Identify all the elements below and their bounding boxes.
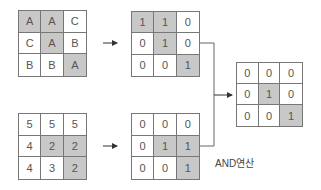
grid-cell: 5	[64, 114, 86, 136]
grid-cell: B	[41, 54, 63, 76]
grid-cell: 5	[41, 114, 63, 136]
grid-cell: A	[19, 11, 41, 33]
grid-cell: 0	[154, 55, 176, 76]
grid-cell: 1	[280, 105, 302, 126]
grid-input-numeric: 555422432	[18, 113, 87, 180]
grid-cell: 0	[132, 136, 154, 158]
grid-cell: 0	[132, 157, 154, 179]
grid-cell: 0	[132, 33, 154, 54]
grid-cell: 0	[237, 63, 259, 84]
grid-cell: 2	[64, 136, 86, 158]
grid-cell: 0	[259, 63, 281, 84]
grid-cell: 1	[177, 136, 199, 158]
grid-cell: 0	[280, 63, 302, 84]
grid-cell: 2	[64, 157, 86, 179]
grid-cell: 1	[154, 12, 176, 33]
grid-cell: 1	[259, 84, 281, 105]
grid-binary-bottom: 000011001	[131, 113, 200, 180]
grid-cell: 4	[19, 157, 41, 179]
and-operation-label: AND연산	[215, 155, 254, 170]
grid-cell: A	[41, 33, 63, 55]
grid-cell: 0	[280, 84, 302, 105]
grid-cell: 0	[177, 114, 199, 136]
grid-cell: 0	[237, 105, 259, 126]
grid-cell: A	[41, 11, 63, 33]
grid-cell: 4	[19, 136, 41, 158]
grid-cell: 1	[177, 157, 199, 179]
grid-cell: 0	[132, 55, 154, 76]
grid-input-categorical: AACCABBBA	[18, 10, 87, 77]
grid-cell: 1	[154, 136, 176, 158]
grid-binary-top: 110010001	[131, 11, 200, 77]
merge-bracket	[200, 43, 214, 146]
grid-cell: B	[64, 33, 86, 55]
grid-cell: C	[19, 33, 41, 55]
grid-cell: 0	[132, 114, 154, 136]
grid-cell: 0	[237, 84, 259, 105]
grid-cell: 0	[154, 157, 176, 179]
grid-cell: B	[19, 54, 41, 76]
grid-cell: 0	[154, 114, 176, 136]
grid-cell: A	[64, 54, 86, 76]
grid-cell: 0	[177, 33, 199, 54]
grid-cell: 0	[177, 12, 199, 33]
grid-cell: 1	[132, 12, 154, 33]
grid-result: 000010001	[236, 62, 303, 127]
grid-cell: 2	[41, 136, 63, 158]
grid-cell: 3	[41, 157, 63, 179]
grid-cell: 0	[259, 105, 281, 126]
grid-cell: C	[64, 11, 86, 33]
grid-cell: 1	[154, 33, 176, 54]
grid-cell: 1	[177, 55, 199, 76]
grid-cell: 5	[19, 114, 41, 136]
